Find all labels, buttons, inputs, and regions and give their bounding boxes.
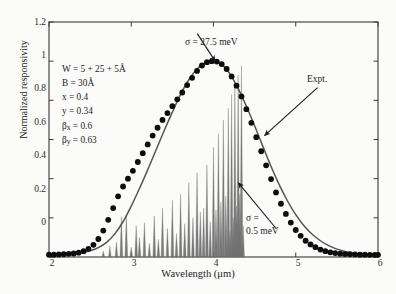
data-point [189,75,195,81]
data-point [160,117,166,123]
data-point [283,211,289,217]
spike [227,108,230,257]
spike [230,94,233,257]
data-point [288,220,294,226]
data-point [318,247,324,253]
data-point [81,248,87,254]
data-point [86,246,92,252]
data-point [204,59,210,65]
spike [196,173,199,257]
spike [166,229,169,257]
spike [209,222,212,257]
data-point [199,63,205,69]
x-tick-label-4: 4 [209,258,223,268]
annotation-sigma-narrow-line2: 0.5 meV [246,225,279,238]
spike [143,223,146,257]
data-point [46,252,52,258]
param-x: x = 0.4 [62,90,126,104]
data-point [91,242,97,248]
annotation-sigma-broadened: σ = 27.5 meV [185,36,238,49]
spike [215,210,218,257]
data-point [253,134,259,140]
data-point [293,227,299,233]
data-point [115,193,121,199]
x-tick-label-2: 2 [45,258,59,268]
spike [115,242,118,257]
spike [222,120,225,257]
spike [148,243,151,257]
data-point [303,238,309,244]
data-point [150,133,156,139]
data-point [51,252,57,258]
data-point [327,249,333,255]
data-point [194,68,200,74]
data-point [367,252,373,258]
data-point [258,148,264,154]
data-point [165,110,171,116]
param-beta-x: βx = 0.6 [62,119,126,134]
data-point [140,150,146,156]
data-point [130,168,136,174]
data-point [184,82,190,88]
spike [157,239,160,257]
data-point [268,176,274,182]
data-point [273,189,279,195]
data-point [110,205,116,211]
data-point [95,236,101,242]
spike [130,247,133,257]
spike [220,202,223,257]
data-point [357,252,363,258]
spike [212,147,215,257]
data-point [337,251,343,257]
annotation-sigma-narrow-line1: σ = [246,212,279,225]
data-point [145,141,151,147]
data-point [263,162,269,168]
param-b: B = 30Å [62,76,126,90]
data-point [234,83,240,89]
spike [224,196,227,257]
data-point [105,217,111,223]
data-point [313,244,319,250]
spike [187,183,190,257]
x-axis-label: Wavelength (μm) [0,268,396,279]
data-point [362,252,368,258]
data-point [135,159,141,165]
data-point [239,94,245,100]
figure-container: 1.2 1 0.8 0.6 0.4 0.2 0 2 3 4 5 6 Normal… [0,0,396,294]
spike [217,134,220,257]
spike [202,208,205,257]
data-point [71,251,77,257]
data-point [174,96,180,102]
spike [109,246,112,257]
spike [102,251,105,257]
spike [183,224,186,257]
data-point [347,251,353,257]
parameter-annotation-box: W = 5 + 25 + 5Å B = 30Å x = 0.4 y = 0.34… [62,62,126,148]
spike [135,226,138,257]
data-point [155,125,161,131]
data-point [248,120,254,126]
spike [192,218,195,257]
data-point [224,66,230,72]
spike [206,165,209,257]
annotation-sigma-narrow: σ = 0.5 meV [246,212,279,238]
data-point [352,252,358,258]
data-point [229,74,235,80]
spike [138,237,141,257]
data-point [66,251,72,257]
data-point [76,250,82,256]
data-point [100,228,106,234]
annotation-arrow-expt-pointer [264,88,317,136]
data-point [375,252,381,258]
data-point [298,233,304,239]
spike [199,212,202,257]
data-point [125,176,131,182]
annotation-expt: Expt. [307,73,327,86]
spike [161,208,164,257]
param-y: y = 0.34 [62,104,126,118]
spike [171,200,174,257]
spike [153,216,156,257]
y-tick-label-0_2: 0.2 [16,184,46,194]
data-point [56,252,62,258]
x-tick-label-6: 6 [373,258,387,268]
